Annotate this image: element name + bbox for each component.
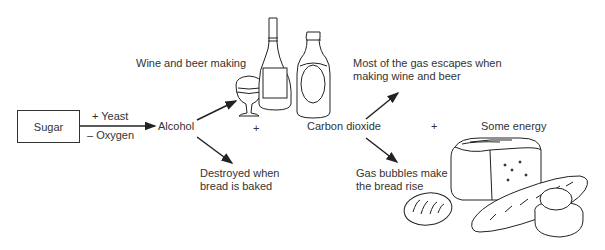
some-energy-label: Some energy xyxy=(481,120,546,133)
plus-sign-2: + xyxy=(431,120,437,133)
arrow-alcohol-up xyxy=(197,101,236,120)
carbon-dioxide-label: Carbon dioxide xyxy=(307,120,381,133)
plus-sign-1: + xyxy=(253,122,259,135)
bread-roll-icon xyxy=(402,190,454,228)
sugar-label: Sugar xyxy=(34,121,63,133)
beer-bottle-icon xyxy=(297,32,330,118)
arrow-co2-up xyxy=(366,93,398,119)
alcohol-label: Alcohol xyxy=(158,120,194,133)
arrow-co2-down xyxy=(366,138,397,162)
wine-bottle-icon xyxy=(259,18,291,110)
sugar-box: Sugar xyxy=(17,110,80,143)
destroyed-label-line2: bread is baked xyxy=(200,180,272,193)
oxygen-label: – Oxygen xyxy=(87,129,134,142)
destroyed-label-line1: Destroyed when xyxy=(200,167,280,180)
gas-bubbles-line2: the bread rise xyxy=(356,180,423,193)
wine-glass-icon xyxy=(236,76,262,116)
wine-beer-making-label: Wine and beer making xyxy=(136,57,246,70)
gas-escapes-line1: Most of the gas escapes when xyxy=(353,57,502,70)
gas-bubbles-line1: Gas bubbles make xyxy=(356,167,448,180)
gas-escapes-line2: making wine and beer xyxy=(353,70,461,83)
yeast-label: + Yeast xyxy=(92,110,128,123)
arrow-alcohol-down xyxy=(197,137,232,163)
